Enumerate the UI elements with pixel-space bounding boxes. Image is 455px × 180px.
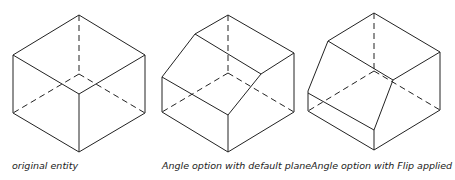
caption-original-entity: original entity xyxy=(12,160,78,171)
caption-angle-flip-applied: Angle option with Flip applied xyxy=(311,160,452,171)
caption-angle-default-plane: Angle option with default plane xyxy=(162,160,311,171)
angle-default-cube xyxy=(162,15,294,152)
angle-flip-cube xyxy=(308,13,440,150)
diagram-canvas xyxy=(0,0,455,180)
original-cube xyxy=(13,15,145,152)
